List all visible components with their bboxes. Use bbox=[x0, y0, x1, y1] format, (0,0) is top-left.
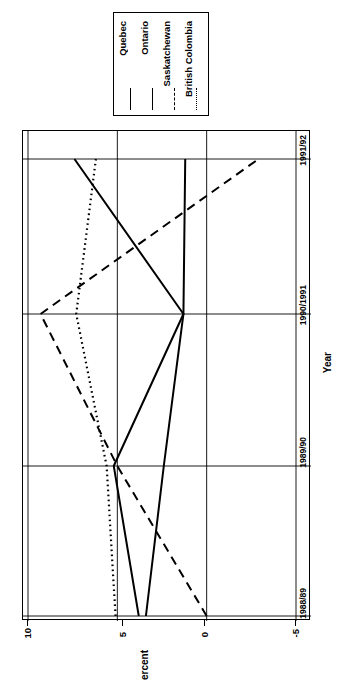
legend-label-quebec: Quebec bbox=[118, 21, 128, 56]
legend-entry-saskatchewan: Saskatchewan bbox=[162, 19, 184, 111]
x-axis-title: Year bbox=[322, 352, 333, 375]
plot-area bbox=[22, 130, 310, 620]
legend-line-sample-solid-quebec bbox=[130, 88, 131, 110]
y-tickmark-5 bbox=[122, 620, 123, 626]
x-tick-label-1990-1991: 1990/1991 bbox=[298, 285, 308, 327]
series-line-british-colombia bbox=[76, 159, 115, 616]
legend-label-saskatchewan: Saskatchewan bbox=[162, 21, 172, 86]
line-chart-figure: Quebec Ontario Saskatchewan British Colo… bbox=[0, 0, 348, 680]
x-tick-label-1989-90: 1989/90 bbox=[298, 437, 308, 470]
legend-entry-quebec: Quebec bbox=[118, 19, 140, 111]
legend-line-sample-dashed-saskatchewan bbox=[174, 88, 175, 110]
y-tickmark-0 bbox=[204, 620, 205, 626]
legend-line-sample-dotted-british-colombia bbox=[196, 88, 197, 110]
y-tick-label-minus-5: -5 bbox=[290, 628, 301, 639]
y-tickmark-minus-5 bbox=[295, 620, 296, 626]
y-tick-label-0: 0 bbox=[199, 628, 210, 639]
legend-entry-ontario: Ontario bbox=[140, 19, 162, 111]
legend-label-ontario: Ontario bbox=[140, 21, 150, 55]
legend-line-sample-solid-ontario bbox=[152, 88, 153, 110]
y-tickmark-10 bbox=[27, 620, 28, 626]
legend-entry-british-colombia: British Colombia bbox=[184, 19, 206, 111]
x-tick-label-1988-89: 1988/89 bbox=[298, 588, 308, 621]
y-axis-title: Percent bbox=[139, 650, 150, 680]
chart-legend: Quebec Ontario Saskatchewan British Colo… bbox=[113, 12, 209, 116]
y-tick-label-10: 10 bbox=[22, 628, 33, 641]
y-tick-label-5: 5 bbox=[117, 628, 128, 639]
x-tick-label-1991-92: 1991/92 bbox=[298, 135, 308, 168]
legend-label-british-colombia: British Colombia bbox=[184, 21, 194, 97]
chart-canvas bbox=[23, 131, 311, 621]
